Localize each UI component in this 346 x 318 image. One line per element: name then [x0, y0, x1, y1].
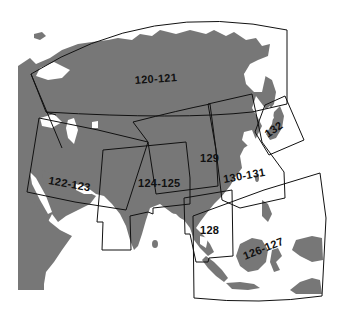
- sri-lanka: [152, 240, 158, 248]
- sulawesi: [270, 248, 282, 272]
- south-china-sea: [216, 192, 258, 232]
- label-124-125[interactable]: 124-125: [138, 177, 180, 189]
- sumatra: [202, 256, 228, 282]
- svalbard: [34, 32, 46, 40]
- label-128[interactable]: 128: [200, 224, 219, 236]
- label-129[interactable]: 129: [200, 152, 219, 164]
- map-canvas: 120-121 122-123 124-125 129 130-131 132 …: [0, 0, 346, 318]
- new-guinea: [292, 236, 323, 262]
- australia-top: [290, 278, 322, 294]
- philippines: [262, 200, 272, 222]
- aral-sea: [92, 121, 98, 128]
- java: [226, 282, 260, 290]
- asia-index-map: 120-121 122-123 124-125 129 130-131 132 …: [0, 0, 346, 318]
